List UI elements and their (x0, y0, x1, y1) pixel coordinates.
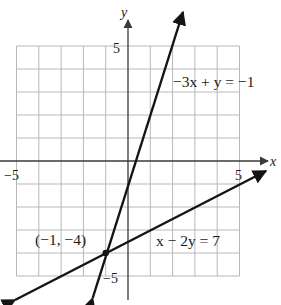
intersection-point (103, 250, 109, 256)
x-tick-5: 5 (235, 168, 242, 183)
intersection-label: (−1, −4) (35, 231, 86, 249)
y-tick-neg5: −5 (103, 271, 118, 286)
line1-equation-label: −3x + y = −1 (173, 73, 254, 90)
line2-equation-label: x − 2y = 7 (156, 232, 220, 249)
y-tick-5: 5 (113, 41, 120, 56)
coordinate-plane: y x 5 −5 −5 5 −3x + y = −1 x − 2y = 7 (−… (0, 0, 281, 305)
x-axis-label: x (269, 154, 277, 169)
y-axis-label: y (119, 5, 128, 20)
x-tick-neg5: −5 (4, 168, 19, 183)
